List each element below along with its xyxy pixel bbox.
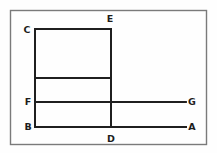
vertex-label-f: F — [25, 96, 32, 107]
vertex-label-b: B — [24, 121, 31, 132]
vertex-label-g: G — [188, 96, 196, 107]
vertex-label-d: D — [107, 133, 115, 144]
vertex-label-a: A — [188, 121, 196, 132]
geometry-diagram: C E F G B A D — [0, 0, 217, 153]
vertex-label-c: C — [24, 24, 31, 35]
figure-canvas: C E F G B A D — [0, 0, 217, 153]
vertex-label-e: E — [107, 13, 114, 24]
